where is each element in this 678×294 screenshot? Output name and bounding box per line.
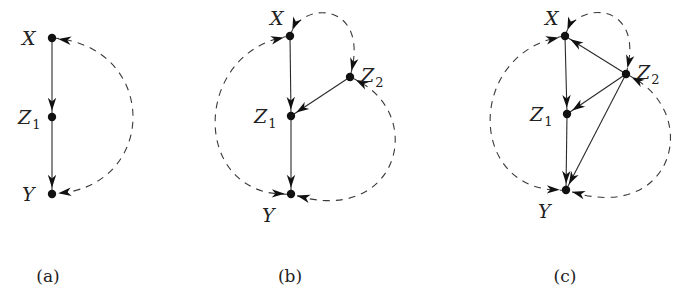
arrowhead-c-Z2-Z1 xyxy=(572,100,585,111)
node-label-main: Y xyxy=(22,183,37,205)
bidirected-edge-c-X-Y xyxy=(490,36,566,190)
arrowhead-c-Z2-Y xyxy=(569,171,579,185)
node-label-b-X: X xyxy=(268,7,285,29)
arrowhead-c-Z2-X-bidirected xyxy=(567,17,576,31)
panel-caption-b: (b) xyxy=(278,266,302,286)
node-b-X xyxy=(286,32,294,40)
node-label-a-Z1: Z1 xyxy=(17,106,40,132)
node-label-main: Z xyxy=(17,106,32,128)
node-label-b-Z1: Z1 xyxy=(253,105,276,131)
bidirected-edge-a-X-Y xyxy=(52,38,133,194)
arrowhead-b-Z2-Y-bidirected xyxy=(297,195,311,203)
node-b-Y xyxy=(287,190,295,198)
arrowhead-c-Z2-Y-bidirected xyxy=(572,191,586,199)
arrowhead-b-Z2-Z1 xyxy=(296,102,309,113)
node-label-main: X xyxy=(20,27,37,49)
panel-caption-c: (c) xyxy=(554,266,577,286)
arrowhead-c-X-Z2-bidirected xyxy=(626,54,634,68)
node-label-subscript: 2 xyxy=(651,72,659,87)
node-label-main: Y xyxy=(262,204,277,226)
node-label-main: Z xyxy=(253,105,268,127)
node-b-Z2 xyxy=(346,73,354,81)
node-b-Z1 xyxy=(287,112,295,120)
node-c-Z1 xyxy=(563,110,571,118)
bidirected-edge-b-X-Z2 xyxy=(290,13,354,77)
causal-diagram-figure: XZ1YXZ1Z2YXZ1Z2Y (a)(b)(c) xyxy=(0,0,678,294)
node-label-main: Z xyxy=(529,103,544,125)
node-a-Y xyxy=(48,190,56,198)
node-label-b-Y: Y xyxy=(262,204,277,226)
arrowhead-a-X-Y-bidirected xyxy=(58,188,71,196)
node-label-c-Z1: Z1 xyxy=(529,103,552,129)
node-c-X xyxy=(561,32,569,40)
node-a-X xyxy=(48,34,56,42)
node-label-subscript: 1 xyxy=(32,117,40,132)
node-label-main: X xyxy=(268,7,285,29)
node-label-main: Y xyxy=(538,200,553,222)
node-label-subscript: 2 xyxy=(375,75,383,90)
node-label-subscript: 1 xyxy=(544,114,552,129)
node-label-a-X: X xyxy=(20,27,37,49)
bidirected-edge-c-Z2-Y xyxy=(566,74,670,197)
node-label-c-Y: Y xyxy=(538,200,553,222)
node-label-main: Z xyxy=(360,64,375,86)
arrowhead-b-Z2-X-bidirected xyxy=(292,17,301,31)
node-label-main: X xyxy=(543,7,560,29)
node-a-Z1 xyxy=(48,113,56,121)
node-c-Z2 xyxy=(622,70,630,78)
node-c-Y xyxy=(562,186,570,194)
node-label-subscript: 1 xyxy=(268,116,276,131)
panel-caption-a: (a) xyxy=(36,266,59,286)
arrowhead-c-Z2-X xyxy=(570,39,583,49)
node-label-a-Y: Y xyxy=(22,183,37,205)
bidirected-edge-b-Z2-Y xyxy=(291,77,395,201)
node-label-c-X: X xyxy=(543,7,560,29)
node-label-main: Z xyxy=(636,61,651,83)
directed-edge-c-Z2-Y xyxy=(566,74,626,190)
arrowhead-b-X-Z2-bidirected xyxy=(350,57,358,71)
